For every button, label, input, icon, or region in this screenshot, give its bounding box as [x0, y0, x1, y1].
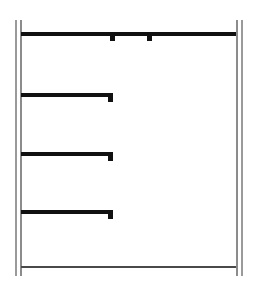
- drawing-canvas: [0, 0, 254, 284]
- shelf-rail-1-end-tab: [108, 97, 113, 102]
- shelf-rail-2-end-tab: [108, 156, 113, 161]
- right-outer-post: [236, 20, 238, 276]
- shelf-rail-1: [21, 93, 113, 97]
- top-rail-tab-left: [110, 36, 115, 41]
- top-rail: [21, 32, 236, 36]
- left-inner-post: [20, 20, 22, 276]
- bottom-rail: [21, 266, 236, 268]
- shelving-unit-diagram: [0, 0, 254, 284]
- shelf-rail-3: [21, 210, 113, 214]
- shelf-rail-2: [21, 152, 113, 156]
- left-outer-post: [15, 20, 17, 276]
- top-rail-tab-right: [147, 36, 152, 41]
- right-inner-post: [241, 20, 243, 276]
- shelf-rail-3-end-tab: [108, 214, 113, 219]
